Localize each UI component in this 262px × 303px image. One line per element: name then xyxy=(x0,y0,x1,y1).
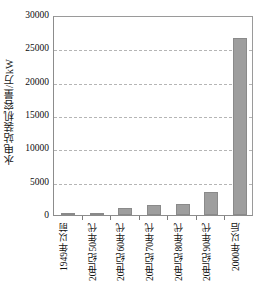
x-axis-tick-labels: 1949年以前20世纪50年代20世纪60年代20世纪70年代20世纪80年代2… xyxy=(53,222,253,303)
x-axis-tick-label: 1949年以前 xyxy=(60,222,74,271)
y-axis-tick-labels: 050001000015000200002500030000 xyxy=(18,0,52,225)
bar xyxy=(176,204,190,215)
x-axis-tick-label: 20世纪70年代 xyxy=(146,222,160,281)
x-axis-tick-label: 2000年以后 xyxy=(232,222,246,271)
x-axis-tick xyxy=(110,216,111,220)
bar-chart: 水电站装机容量/万kW 0500010000150002000025000300… xyxy=(0,0,262,303)
y-axis-tick-label: 30000 xyxy=(25,11,49,21)
bar xyxy=(147,205,161,215)
y-axis-tick-label: 10000 xyxy=(25,145,49,155)
x-axis-tick xyxy=(139,216,140,220)
x-axis-tick xyxy=(82,216,83,220)
x-axis-tick xyxy=(196,216,197,220)
bar xyxy=(90,213,104,215)
y-axis-title: 水电站装机容量/万kW xyxy=(0,0,20,225)
bar xyxy=(204,192,218,215)
x-axis-tick-label: 20世纪80年代 xyxy=(175,222,189,281)
plot-area xyxy=(53,16,253,216)
bar xyxy=(61,213,75,215)
bar xyxy=(118,208,132,215)
x-axis-ticks xyxy=(53,216,253,220)
x-axis-tick xyxy=(167,216,168,220)
y-axis-tick-label: 25000 xyxy=(25,45,49,55)
x-axis-tick-label: 20世纪90年代 xyxy=(203,222,217,281)
bars-group xyxy=(54,17,252,215)
x-axis-tick-label: 20世纪50年代 xyxy=(89,222,103,281)
y-axis-tick-label: 15000 xyxy=(25,111,49,121)
y-axis-tick-label: 0 xyxy=(44,211,49,221)
x-axis-tick xyxy=(224,216,225,220)
y-axis-tick-label: 20000 xyxy=(25,78,49,88)
y-axis-tick-label: 5000 xyxy=(30,178,49,188)
bar xyxy=(233,38,247,215)
x-axis-tick-label: 20世纪60年代 xyxy=(117,222,131,281)
y-axis-title-text: 水电站装机容量/万kW xyxy=(5,59,16,165)
